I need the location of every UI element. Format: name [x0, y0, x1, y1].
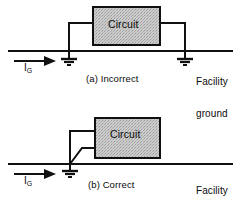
ground-current-label-a: IG — [24, 63, 32, 74]
facility-ground-label-b: Facility ground — [196, 165, 228, 197]
ground-current-subscript-a: G — [27, 67, 32, 74]
facility-ground-label-b-line1: Facility — [196, 186, 228, 197]
panel-a-caption: (a) Incorrect — [86, 74, 139, 84]
circuit-box-label-a: Circuit — [108, 19, 138, 30]
right-ground-lead-a — [160, 23, 185, 51]
ground-current-label-b: IG — [24, 176, 32, 187]
circuit-box-label-b: Circuit — [110, 129, 140, 140]
ground-symbol-b-single — [62, 164, 78, 177]
ground-symbol-a-left — [61, 51, 77, 65]
current-arrow-a — [14, 56, 56, 66]
facility-ground-label-a-line1: Facility — [196, 77, 228, 88]
lower-ground-lead-b — [70, 148, 95, 164]
left-ground-lead-a — [69, 23, 93, 51]
current-arrow-b — [14, 169, 56, 179]
facility-ground-label-a: Facility ground — [196, 56, 228, 140]
panel-b-caption: (b) Correct — [88, 180, 135, 190]
facility-ground-label-a-line2: ground — [196, 109, 228, 120]
ground-symbol-a-right — [177, 51, 193, 65]
grounding-diagram-figure: Circuit (a) Incorrect Facility ground IG… — [0, 0, 241, 197]
ground-current-subscript-b: G — [27, 180, 32, 187]
